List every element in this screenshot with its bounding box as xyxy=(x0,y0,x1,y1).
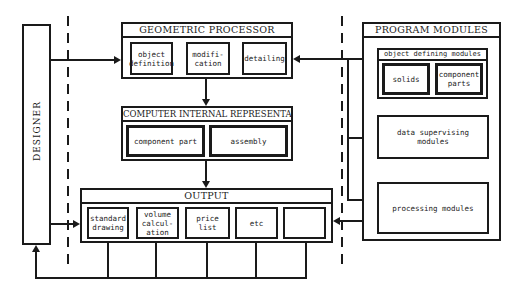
internal-representation-title: COMPUTER INTERNAL REPRESENTATION xyxy=(123,108,291,122)
arrowhead-down-icon xyxy=(202,181,210,188)
detailing-module: detailing xyxy=(242,42,287,75)
component-part-module: component part xyxy=(126,125,205,157)
object-definition-module: object definition xyxy=(130,42,173,75)
output-title: OUTPUT xyxy=(82,190,331,204)
designer-box: DESIGNER xyxy=(22,24,51,245)
program-modules-box: PROGRAM MODULES object defining modules … xyxy=(362,22,501,241)
price-list-module: price list xyxy=(185,207,230,239)
module-connector-vertical xyxy=(347,58,349,201)
feedback-up-to-designer xyxy=(35,250,37,279)
arrow-cir-to-output xyxy=(205,161,207,183)
feedback-drop-4 xyxy=(255,243,257,279)
arrowhead-left-icon xyxy=(333,217,340,225)
empty-output-module xyxy=(283,207,326,239)
etc-module: etc xyxy=(235,207,278,239)
designer-label: DESIGNER xyxy=(32,89,42,174)
feedback-bus xyxy=(35,277,307,279)
arrowhead-right-icon xyxy=(73,220,80,228)
arrow-gp-to-cir xyxy=(205,79,207,101)
feedback-drop-5 xyxy=(305,243,307,279)
solids-module: solids xyxy=(382,63,430,95)
volume-calculation-module: volume calcul- ation xyxy=(136,207,179,239)
feedback-drop-3 xyxy=(206,243,208,279)
data-supervising-modules: data supervising modules xyxy=(377,115,489,159)
program-modules-title: PROGRAM MODULES xyxy=(364,24,499,38)
standard-drawing-module: standard drawing xyxy=(87,207,129,239)
arrow-designer-to-gp xyxy=(51,59,115,61)
boundary-dashed-line-right xyxy=(341,16,343,266)
arrowhead-up-icon xyxy=(32,245,40,252)
geometric-processor-box: GEOMETRIC PROCESSOR object definition mo… xyxy=(121,22,293,79)
object-defining-modules-title: object defining modules xyxy=(379,50,486,61)
processing-modules: processing modules xyxy=(377,182,489,234)
assembly-module: assembly xyxy=(209,125,288,157)
object-defining-modules-box: object defining modules solids component… xyxy=(377,48,488,99)
arrow-designer-to-output xyxy=(51,223,74,225)
arrowhead-down-icon xyxy=(202,99,210,106)
feedback-drop-2 xyxy=(155,243,157,279)
internal-representation-box: COMPUTER INTERNAL REPRESENTATION compone… xyxy=(121,106,293,161)
geometric-processor-title: GEOMETRIC PROCESSOR xyxy=(123,24,291,38)
modification-module: modifi- cation xyxy=(186,42,230,75)
arrowhead-right-icon xyxy=(114,56,121,64)
output-box: OUTPUT standard drawing volume calcul- a… xyxy=(80,188,333,243)
component-parts-module: component parts xyxy=(435,63,483,95)
boundary-dashed-line-left xyxy=(67,16,69,266)
feedback-drop-1 xyxy=(107,243,109,279)
arrowhead-left-icon xyxy=(293,55,300,63)
